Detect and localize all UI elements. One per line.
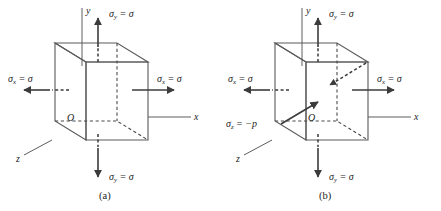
panel-b-z-axis [244, 140, 272, 155]
panel-b-x-axis-label: x [413, 111, 419, 122]
panel-b-sigma-y-top-label: σy = σ [329, 8, 355, 20]
panel-a-sigma-y-bottom-label: σy = σ [109, 171, 135, 183]
panel-b: O y x z σy = σ σy = σ σx = σ σx = σ [226, 5, 419, 202]
panel-a-x-axis-label: x [193, 111, 199, 122]
panel-a-origin-label: O [67, 112, 74, 123]
panel-a-y-axis-label: y [85, 5, 91, 16]
panel-a-z-axis-label: z [15, 153, 20, 164]
panel-b-origin-label: O [308, 112, 315, 123]
panel-a-cube-hidden-bottom [55, 121, 148, 140]
panel-b-sigma-x-right-label: σx = σ [377, 73, 403, 85]
panel-b-sigma-y-bottom-label: σy = σ [329, 171, 355, 183]
panel-a-cube-left-face [55, 43, 86, 140]
stress-element-figure: O y x z σy = σ σy = σ σx = σ σx = σ [0, 0, 441, 211]
panel-b-sigma-z-label: σz = −p [226, 118, 257, 130]
panel-b-sigma-x-left-label: σx = σ [228, 73, 254, 85]
panel-b-cube-left-face [275, 43, 306, 140]
panel-a-cube-top-face [55, 43, 148, 62]
panel-a-sigma-x-left-label: σx = σ [8, 73, 34, 85]
panel-b-cube-top-face [275, 43, 368, 62]
figure-canvas: O y x z σy = σ σy = σ σx = σ σx = σ [0, 0, 441, 211]
panel-b-caption: (b) [319, 190, 332, 202]
panel-b-sigma-z-back-arrow [330, 63, 366, 85]
panel-a-caption: (a) [99, 190, 111, 202]
panel-a: O y x z σy = σ σy = σ σx = σ σx = σ [8, 5, 199, 202]
panel-a-sigma-x-right-label: σx = σ [157, 73, 183, 85]
panel-b-cube-hidden-bottom [275, 121, 368, 140]
panel-b-z-axis-label: z [235, 153, 240, 164]
panel-b-y-axis-label: y [305, 5, 311, 16]
panel-a-z-axis [24, 140, 52, 155]
panel-a-sigma-y-top-label: σy = σ [109, 8, 135, 20]
